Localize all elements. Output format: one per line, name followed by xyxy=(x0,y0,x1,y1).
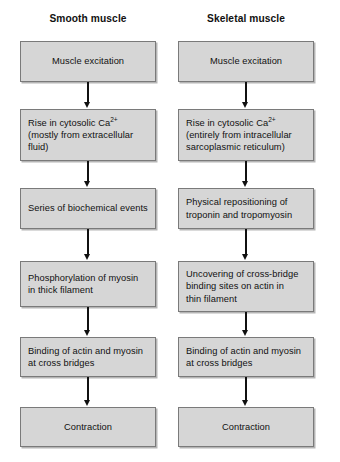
arrow-head xyxy=(242,181,248,187)
node-contraction: Contraction xyxy=(178,407,314,447)
arrow-shaft xyxy=(87,307,89,331)
node-label: Muscle excitation xyxy=(52,55,124,67)
arrow-shaft xyxy=(87,161,89,182)
node-label: Phosphorylation of myosinin thick filame… xyxy=(28,272,138,296)
arrow-shaft xyxy=(87,82,89,103)
arrow-shaft xyxy=(245,377,247,401)
node-label: Contraction xyxy=(64,421,112,433)
node-label: Rise in cytosolic Ca2+(entirely from int… xyxy=(186,117,292,154)
arrow-down-icon xyxy=(87,307,89,336)
arrow-down-icon xyxy=(245,377,247,406)
arrow-shaft xyxy=(245,82,247,103)
arrow-head xyxy=(242,330,248,336)
node-label: Binding of actin and myosinat cross brid… xyxy=(186,345,301,369)
column-header-skeletal-muscle: Skeletal muscle xyxy=(178,13,314,25)
node-label: Binding of actin and myosinat cross brid… xyxy=(28,345,143,369)
node-label: Physical repositioning oftroponin and tr… xyxy=(186,196,292,220)
flowchart-diagram: Smooth muscle Muscle excitationRise in c… xyxy=(0,0,340,462)
node-rise-in-cytosolic-ca: Rise in cytosolic Ca2+(mostly from extra… xyxy=(20,109,156,161)
arrow-down-icon xyxy=(87,82,89,108)
node-label: Rise in cytosolic Ca2+(mostly from extra… xyxy=(28,117,133,154)
arrow-down-icon xyxy=(245,229,247,260)
arrow-head xyxy=(242,400,248,406)
node-series-of-biochemical-events: Series of biochemical events xyxy=(20,188,156,229)
node-uncovering-of-cross-bridge-binding-sites: Uncovering of cross-bridgebinding sites … xyxy=(178,261,314,312)
arrow-head xyxy=(242,254,248,260)
node-physical-repositioning-of-troponin: Physical repositioning oftroponin and tr… xyxy=(178,188,314,229)
node-label: Series of biochemical events xyxy=(28,202,148,214)
node-muscle-excitation: Muscle excitation xyxy=(178,41,314,82)
arrow-down-icon xyxy=(245,312,247,336)
arrow-down-icon xyxy=(87,229,89,260)
arrow-head xyxy=(84,330,90,336)
arrow-head xyxy=(84,254,90,260)
arrow-down-icon xyxy=(87,161,89,187)
arrow-head xyxy=(84,181,90,187)
arrow-shaft xyxy=(245,161,247,182)
node-contraction: Contraction xyxy=(20,407,156,447)
arrow-head xyxy=(84,400,90,406)
node-label: Muscle excitation xyxy=(210,55,282,67)
arrow-down-icon xyxy=(245,82,247,108)
node-label: Contraction xyxy=(222,421,270,433)
column-header-smooth-muscle: Smooth muscle xyxy=(20,13,156,25)
node-muscle-excitation: Muscle excitation xyxy=(20,41,156,82)
node-label: Uncovering of cross-bridgebinding sites … xyxy=(186,268,298,305)
node-binding-of-actin-and-myosin: Binding of actin and myosinat cross brid… xyxy=(178,337,314,377)
arrow-shaft xyxy=(87,229,89,255)
node-rise-in-cytosolic-ca: Rise in cytosolic Ca2+(entirely from int… xyxy=(178,109,314,161)
node-phosphorylation-of-myosin: Phosphorylation of myosinin thick filame… xyxy=(20,261,156,307)
arrow-down-icon xyxy=(245,161,247,187)
node-binding-of-actin-and-myosin: Binding of actin and myosinat cross brid… xyxy=(20,337,156,377)
arrow-shaft xyxy=(245,312,247,331)
arrow-head xyxy=(84,102,90,108)
arrow-head xyxy=(242,102,248,108)
arrow-shaft xyxy=(87,377,89,401)
arrow-shaft xyxy=(245,229,247,255)
arrow-down-icon xyxy=(87,377,89,406)
